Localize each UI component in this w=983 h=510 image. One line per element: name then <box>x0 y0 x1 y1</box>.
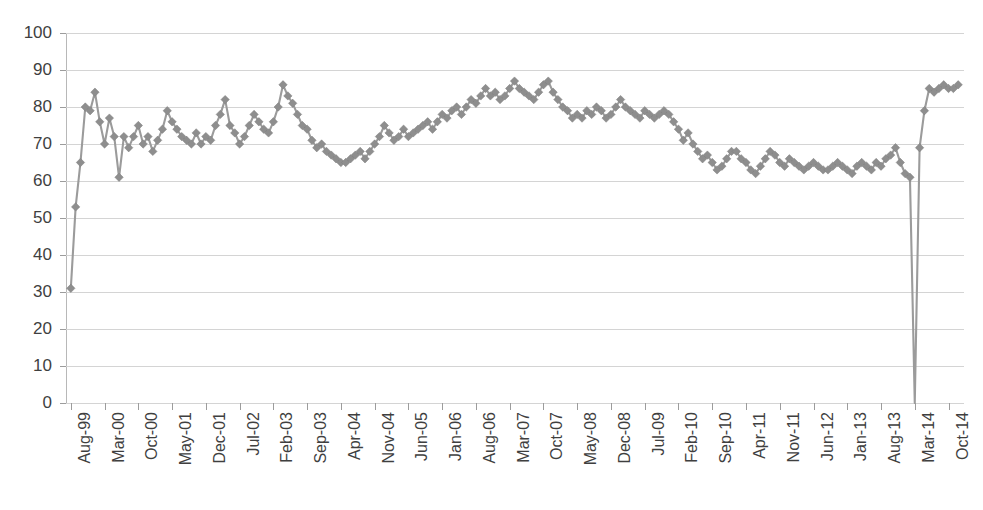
data-point-marker <box>100 140 108 148</box>
data-point-marker <box>269 118 277 126</box>
data-point-marker <box>920 107 928 115</box>
chart-container: 0102030405060708090100 Aug-99Mar-00Oct-0… <box>0 0 983 510</box>
data-point-marker <box>163 107 171 115</box>
data-point-marker <box>279 81 287 89</box>
data-point-marker <box>915 144 923 152</box>
data-series-layer <box>0 0 983 510</box>
data-point-marker <box>158 125 166 133</box>
data-point-marker <box>91 88 99 96</box>
data-point-marker <box>192 129 200 137</box>
data-point-marker <box>71 203 79 211</box>
data-point-marker <box>134 121 142 129</box>
data-point-marker <box>115 173 123 181</box>
data-point-marker <box>96 118 104 126</box>
data-point-marker <box>211 121 219 129</box>
data-point-marker <box>896 158 904 166</box>
data-point-marker <box>129 132 137 140</box>
data-point-marker <box>216 110 224 118</box>
data-point-marker <box>293 110 301 118</box>
data-point-marker <box>105 114 113 122</box>
data-point-marker <box>76 158 84 166</box>
data-point-marker <box>67 284 75 292</box>
data-point-marker <box>120 132 128 140</box>
data-point-marker <box>221 95 229 103</box>
data-point-marker <box>245 121 253 129</box>
series-line <box>71 81 958 403</box>
data-point-marker <box>124 144 132 152</box>
series-markers <box>67 77 963 293</box>
data-point-marker <box>274 103 282 111</box>
data-point-marker <box>153 136 161 144</box>
data-point-marker <box>110 132 118 140</box>
data-point-marker <box>149 147 157 155</box>
